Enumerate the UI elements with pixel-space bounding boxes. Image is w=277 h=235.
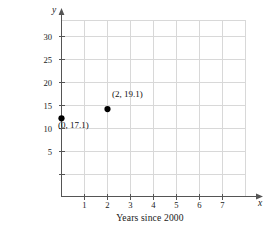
y-tick-label-15: 15 bbox=[30, 101, 52, 111]
x-tick-label-2: 2 bbox=[98, 200, 117, 210]
grid-vertical bbox=[62, 20, 246, 197]
data-point-label-1: (2, 19.1) bbox=[112, 89, 143, 99]
x-tick-label-3: 3 bbox=[121, 200, 140, 210]
y-tick-label-10: 10 bbox=[30, 124, 52, 134]
x-tick-label-4: 4 bbox=[144, 200, 163, 210]
y-tick-label-5: 5 bbox=[30, 147, 52, 157]
chart-figure: 30 25 20 15 10 5 1 2 3 4 5 6 7 y x (0, 1… bbox=[0, 0, 277, 235]
x-tick-label-1: 1 bbox=[75, 200, 94, 210]
y-tick-label-25: 25 bbox=[30, 55, 52, 65]
x-axis-title: Years since 2000 bbox=[40, 212, 260, 223]
x-tick-label-7: 7 bbox=[213, 200, 232, 210]
y-tick-label-30: 30 bbox=[30, 32, 52, 42]
x-axis-letter: x bbox=[258, 198, 262, 208]
data-point-label-0: (0, 17.1) bbox=[58, 120, 89, 130]
x-tick-label-5: 5 bbox=[167, 200, 186, 210]
y-tick-label-20: 20 bbox=[30, 78, 52, 88]
y-axis-arrowhead bbox=[59, 8, 65, 15]
y-axis-letter: y bbox=[52, 5, 56, 15]
data-point-1 bbox=[104, 106, 110, 112]
x-tick-label-6: 6 bbox=[190, 200, 209, 210]
